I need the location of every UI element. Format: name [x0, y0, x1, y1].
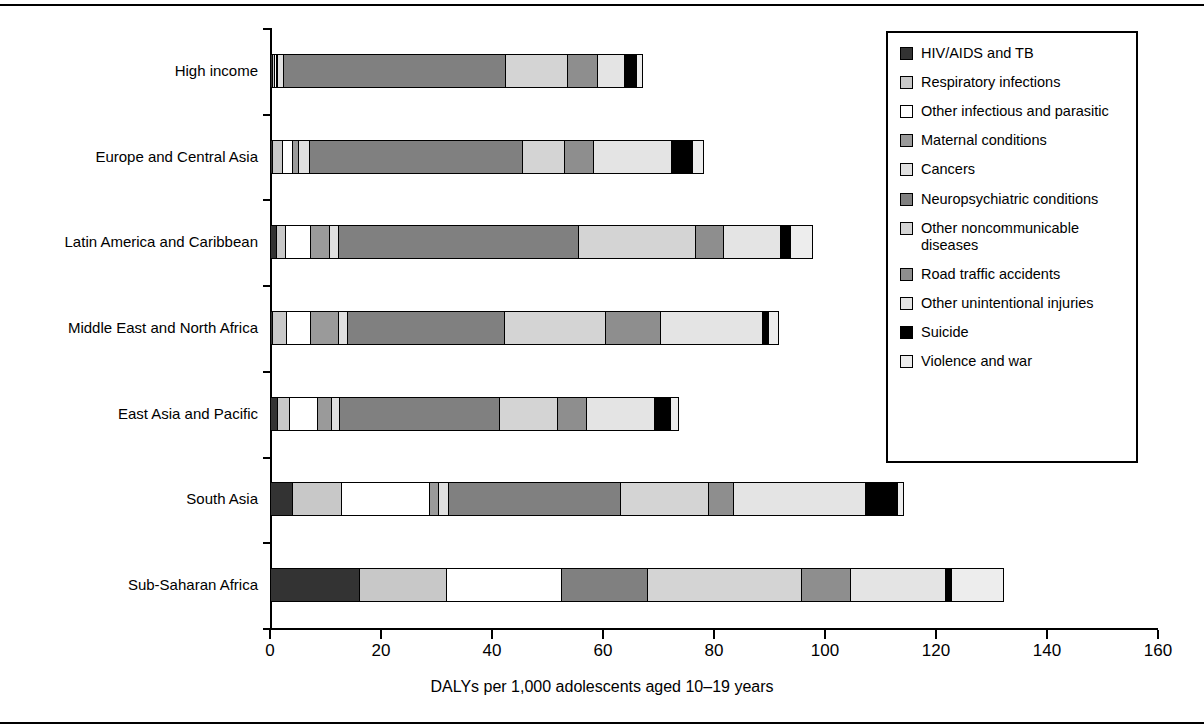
legend-swatch-icon	[900, 134, 913, 147]
y-axis-category-label: Latin America and Caribbean	[65, 234, 258, 249]
bar-segment[interactable]	[733, 482, 866, 516]
legend-item[interactable]: Cancers	[900, 161, 1126, 178]
bar-segment[interactable]	[285, 225, 312, 259]
x-axis-tick	[380, 630, 382, 639]
bar-segment[interactable]	[692, 140, 704, 174]
bar-segment[interactable]	[341, 482, 430, 516]
bar-segment[interactable]	[310, 225, 329, 259]
bar-segment[interactable]	[695, 225, 724, 259]
bar-segment[interactable]	[670, 397, 679, 431]
bar-segment[interactable]	[347, 311, 505, 345]
bar-segment[interactable]	[564, 140, 594, 174]
legend-swatch-icon	[900, 193, 913, 206]
x-axis-tick-label: 60	[573, 642, 633, 659]
bar-segment[interactable]	[557, 397, 587, 431]
y-axis-category-label: Middle East and North Africa	[68, 320, 258, 335]
y-axis-category-labels: High incomeEurope and Central AsiaLatin …	[0, 0, 258, 727]
legend-label: Other infectious and parasitic	[921, 103, 1109, 120]
bar-segment[interactable]	[292, 482, 342, 516]
bar-segment[interactable]	[504, 311, 607, 345]
bar-segment[interactable]	[283, 54, 507, 88]
bar-segment[interactable]	[790, 225, 813, 259]
legend-item[interactable]: Maternal conditions	[900, 132, 1126, 149]
bar-segment[interactable]	[359, 568, 447, 602]
bar-segment[interactable]	[277, 397, 290, 431]
bar-segment[interactable]	[654, 397, 671, 431]
bar-segment[interactable]	[951, 568, 1004, 602]
legend-swatch-icon	[900, 105, 913, 118]
bar-segment[interactable]	[522, 140, 565, 174]
legend-item[interactable]: Road traffic accidents	[900, 266, 1126, 283]
legend-label: Neuropsychiatric conditions	[921, 191, 1098, 208]
bar-segment[interactable]	[593, 140, 671, 174]
x-axis-tick	[713, 630, 715, 639]
bar-segment[interactable]	[671, 140, 693, 174]
legend-item[interactable]: Violence and war	[900, 353, 1126, 370]
legend: HIV/AIDS and TBRespiratory infectionsOth…	[886, 31, 1138, 463]
bar-segment[interactable]	[310, 311, 338, 345]
y-axis-category-label: South Asia	[186, 491, 258, 506]
bar-segment[interactable]	[768, 311, 780, 345]
bar-segment[interactable]	[338, 225, 579, 259]
legend-item[interactable]: Respiratory infections	[900, 74, 1126, 91]
bar-segment[interactable]	[586, 397, 656, 431]
bar-segment[interactable]	[708, 482, 735, 516]
legend-swatch-icon	[900, 297, 913, 310]
x-axis-title: DALYs per 1,000 adolescents aged 10–19 y…	[0, 678, 1204, 696]
y-axis-tick	[263, 542, 271, 544]
y-axis-category-label: Europe and Central Asia	[95, 149, 258, 164]
y-axis-category-label: Sub-Saharan Africa	[128, 577, 258, 592]
bar-segment[interactable]	[289, 397, 318, 431]
y-axis-tick	[263, 457, 271, 459]
bar-segment[interactable]	[801, 568, 851, 602]
legend-swatch-icon	[900, 163, 913, 176]
bar-segment[interactable]	[499, 397, 557, 431]
legend-label: Violence and war	[921, 353, 1032, 370]
bar-segment[interactable]	[636, 54, 643, 88]
y-axis-tick	[263, 628, 271, 630]
legend-item[interactable]: Other noncommunicable diseases	[900, 220, 1126, 254]
bar-segment[interactable]	[505, 54, 567, 88]
bar-segment[interactable]	[317, 397, 332, 431]
bar-segment[interactable]	[286, 311, 312, 345]
stacked-bar[interactable]	[270, 140, 703, 174]
legend-item[interactable]: Other infectious and parasitic	[900, 103, 1126, 120]
bar-segment[interactable]	[865, 482, 897, 516]
stacked-bar[interactable]	[270, 54, 642, 88]
bar-segment[interactable]	[270, 568, 360, 602]
x-axis-tick-label: 0	[240, 642, 300, 659]
bar-segment[interactable]	[850, 568, 945, 602]
bar-segment[interactable]	[620, 482, 709, 516]
bar-segment[interactable]	[270, 482, 293, 516]
legend-item[interactable]: Suicide	[900, 324, 1126, 341]
legend-label: Suicide	[921, 324, 969, 341]
y-axis-category-label: High income	[175, 63, 258, 78]
y-axis-tick	[263, 371, 271, 373]
bar-segment[interactable]	[309, 140, 523, 174]
legend-label: Other unintentional injuries	[921, 295, 1094, 312]
bar-segment[interactable]	[723, 225, 782, 259]
bar-segment[interactable]	[448, 482, 621, 516]
bar-segment[interactable]	[272, 311, 287, 345]
stacked-bar[interactable]	[270, 225, 812, 259]
legend-item[interactable]: Other unintentional injuries	[900, 295, 1126, 312]
stacked-bar[interactable]	[270, 311, 778, 345]
stacked-bar[interactable]	[270, 568, 1003, 602]
x-axis-tick-label: 140	[1017, 642, 1077, 659]
bar-segment[interactable]	[647, 568, 802, 602]
y-axis-tick	[263, 199, 271, 201]
legend-item[interactable]: HIV/AIDS and TB	[900, 45, 1126, 62]
bar-segment[interactable]	[605, 311, 661, 345]
bar-segment[interactable]	[660, 311, 763, 345]
stacked-bar[interactable]	[270, 482, 903, 516]
bar-segment[interactable]	[567, 54, 598, 88]
stacked-bar[interactable]	[270, 397, 678, 431]
bar-segment[interactable]	[339, 397, 500, 431]
bar-segment[interactable]	[578, 225, 696, 259]
bar-segment[interactable]	[561, 568, 648, 602]
x-axis-tick-label: 120	[906, 642, 966, 659]
bar-segment[interactable]	[597, 54, 626, 88]
bar-segment[interactable]	[446, 568, 563, 602]
bar-segment[interactable]	[897, 482, 904, 516]
legend-item[interactable]: Neuropsychiatric conditions	[900, 191, 1126, 208]
